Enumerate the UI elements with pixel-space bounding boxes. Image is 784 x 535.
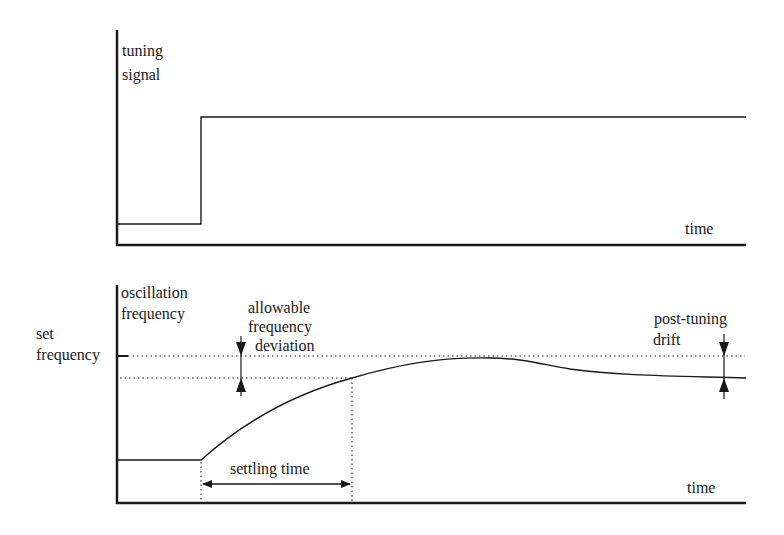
arrow-down-icon	[236, 342, 246, 356]
oscillation-frequency-panel: oscillation frequency set frequency allo…	[36, 284, 746, 504]
tuning-step-signal	[117, 117, 746, 224]
arrow-down-icon	[719, 342, 729, 356]
arrow-up-icon	[236, 378, 246, 392]
settling-time-label: settling time	[230, 460, 310, 478]
post-tuning-drift-label-1: post-tuning	[654, 310, 727, 328]
set-frequency-label-1: set	[36, 325, 54, 342]
allowable-deviation-label-2: frequency	[248, 318, 312, 336]
top-x-label: time	[685, 220, 713, 237]
post-tuning-drift-label-2: drift	[653, 331, 681, 348]
arrow-up-icon	[719, 378, 729, 392]
bottom-x-label: time	[687, 479, 715, 496]
top-y-label-1: tuning	[122, 42, 163, 60]
top-y-label-2: signal	[122, 66, 161, 84]
bottom-y-label-2: frequency	[121, 305, 185, 323]
allowable-deviation-label-3: deviation	[255, 337, 315, 354]
set-frequency-label-2: frequency	[36, 346, 100, 364]
tuning-diagram: tuning signal time osci	[0, 0, 784, 535]
bottom-y-label-1: oscillation	[121, 284, 188, 301]
frequency-response-curve	[117, 358, 746, 460]
tuning-signal-panel: tuning signal time	[116, 30, 746, 246]
allowable-deviation-arrows	[236, 336, 246, 396]
post-tuning-drift-arrows	[719, 334, 729, 399]
allowable-deviation-label-1: allowable	[248, 299, 310, 316]
